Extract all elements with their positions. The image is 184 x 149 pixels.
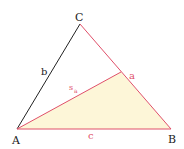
median-label-subscript-a: a	[74, 87, 78, 94]
vertex-label-a: A	[11, 134, 21, 147]
vertex-label-b: B	[168, 133, 176, 146]
side-label-c: c	[88, 130, 94, 141]
vertex-label-c: C	[75, 11, 83, 24]
triangle-diagram: C A B b a c s a	[0, 0, 184, 149]
median-label-s: s	[69, 83, 73, 92]
shaded-triangle-abm	[17, 72, 171, 129]
side-label-a: a	[129, 70, 135, 81]
side-label-b: b	[41, 66, 47, 77]
